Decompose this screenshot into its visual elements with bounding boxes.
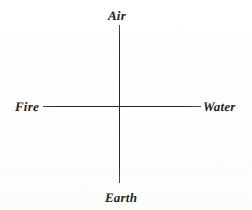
element-axis-figure: Air Earth Fire Water (0, 0, 252, 210)
axis-label-fire: Fire (15, 100, 39, 113)
vertical-axis-line (119, 25, 120, 183)
axis-label-water: Water (203, 100, 236, 113)
horizontal-axis-line (43, 106, 201, 107)
axis-label-earth: Earth (105, 191, 137, 204)
axis-label-air: Air (108, 9, 126, 22)
